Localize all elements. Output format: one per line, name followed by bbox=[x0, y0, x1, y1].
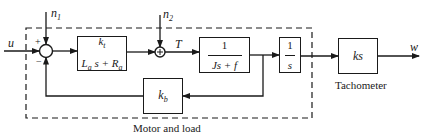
tachometer-block: ks bbox=[338, 38, 378, 74]
motor-and-load-label: Motor and load bbox=[133, 123, 201, 134]
mechanical-transfer-block: 1 Js + f bbox=[199, 37, 250, 73]
back-emf-gain: kb bbox=[158, 88, 167, 104]
integrator-numerator: 1 bbox=[287, 39, 293, 51]
electrical-numerator: kt bbox=[98, 35, 105, 51]
mechanical-numerator: 1 bbox=[222, 39, 228, 51]
input-u-label: u bbox=[8, 37, 14, 49]
tachometer-label: Tachometer bbox=[335, 80, 387, 91]
back-emf-block: kb bbox=[143, 78, 183, 114]
integrator-denominator: s bbox=[288, 59, 292, 71]
minus-sign-1: − bbox=[36, 57, 42, 67]
fraction-bar bbox=[285, 55, 295, 56]
disturbance-n1-label: n1 bbox=[51, 7, 61, 22]
output-w-label: w bbox=[410, 41, 418, 53]
tachometer-gain: ks bbox=[353, 49, 363, 64]
electrical-transfer-block: kt La s + Ra bbox=[77, 36, 127, 71]
electrical-denominator: La s + Ra bbox=[82, 57, 123, 73]
mechanical-denominator: Js + f bbox=[212, 59, 237, 71]
disturbance-n2-label: n2 bbox=[163, 8, 173, 23]
fraction-bar bbox=[208, 55, 242, 56]
torque-label: T bbox=[175, 38, 182, 50]
integrator-block: 1 s bbox=[279, 37, 301, 73]
plus-sign-1: + bbox=[35, 37, 41, 47]
